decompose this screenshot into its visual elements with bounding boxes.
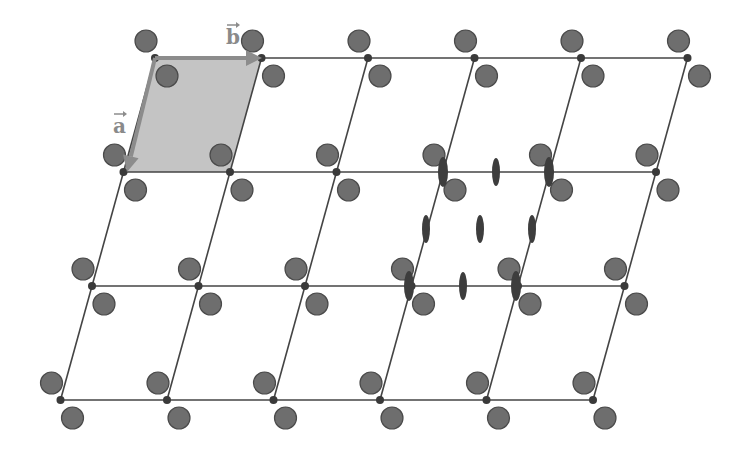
lattice-point (364, 54, 372, 62)
atom-upper-left (467, 372, 489, 394)
lattice-point (88, 282, 96, 290)
lattice-point (333, 168, 341, 176)
atom-lower-right (582, 65, 604, 87)
twofold-axis-symbol (422, 215, 430, 243)
atom-upper-left (41, 372, 63, 394)
atom-lower-right (263, 65, 285, 87)
atom-upper-left (210, 144, 232, 166)
atom-upper-left (147, 372, 169, 394)
atom-upper-left (135, 30, 157, 52)
twofold-axis-symbol (438, 157, 448, 187)
atom-lower-right (156, 65, 178, 87)
atom-lower-right (200, 293, 222, 315)
atom-lower-right (306, 293, 328, 315)
twofold-axis-symbol (544, 157, 554, 187)
twofold-rotation-axes (404, 157, 554, 301)
atom-lower-right (657, 179, 679, 201)
atom-lower-right (444, 179, 466, 201)
atom-upper-left (72, 258, 94, 280)
twofold-axis-symbol (459, 272, 467, 300)
atom-lower-right (93, 293, 115, 315)
twofold-axis-symbol (511, 271, 521, 301)
lattice-point (577, 54, 585, 62)
atom-lower-right (476, 65, 498, 87)
unit-cell-shading (124, 58, 262, 172)
lattice-point (270, 396, 278, 404)
lattice-column-line (593, 58, 688, 400)
twofold-axis-symbol (492, 158, 500, 186)
basis-atoms (41, 30, 711, 429)
atom-upper-left (668, 30, 690, 52)
lattice-point (652, 168, 660, 176)
atom-lower-right (381, 407, 403, 429)
lattice-point (57, 396, 65, 404)
twofold-axis-symbol (476, 215, 484, 243)
atom-lower-right (338, 179, 360, 201)
atom-upper-left (605, 258, 627, 280)
lattice-point (621, 282, 629, 290)
lattice-point (301, 282, 309, 290)
vector-b-label: b (226, 25, 240, 49)
atom-upper-left (455, 30, 477, 52)
atom-upper-left (242, 30, 264, 52)
atom-lower-right (168, 407, 190, 429)
atom-upper-left (104, 144, 126, 166)
vector-a-label: a (113, 114, 126, 138)
unit-cell (124, 58, 262, 172)
atom-lower-right (413, 293, 435, 315)
atom-upper-left (561, 30, 583, 52)
lattice-column-line (274, 58, 369, 400)
atom-lower-right (125, 179, 147, 201)
lattice-diagram: ab (0, 0, 745, 450)
lattice-point (684, 54, 692, 62)
atom-upper-left (285, 258, 307, 280)
lattice-point (195, 282, 203, 290)
lattice-point (163, 396, 171, 404)
twofold-axis-symbol (528, 215, 536, 243)
atom-lower-right (369, 65, 391, 87)
atom-lower-right (551, 179, 573, 201)
atom-lower-right (594, 407, 616, 429)
atom-lower-right (626, 293, 648, 315)
atom-lower-right (488, 407, 510, 429)
lattice-point (120, 168, 128, 176)
atom-upper-left (348, 30, 370, 52)
twofold-axis-symbol (404, 271, 414, 301)
atom-lower-right (519, 293, 541, 315)
atom-upper-left (573, 372, 595, 394)
lattice-point (471, 54, 479, 62)
atom-lower-right (689, 65, 711, 87)
atom-upper-left (360, 372, 382, 394)
lattice-point (226, 168, 234, 176)
atom-upper-left (317, 144, 339, 166)
atom-lower-right (231, 179, 253, 201)
atom-upper-left (254, 372, 276, 394)
lattice-point (589, 396, 597, 404)
atom-lower-right (275, 407, 297, 429)
atom-upper-left (179, 258, 201, 280)
atom-lower-right (62, 407, 84, 429)
lattice-point (376, 396, 384, 404)
lattice-point (483, 396, 491, 404)
atom-upper-left (636, 144, 658, 166)
